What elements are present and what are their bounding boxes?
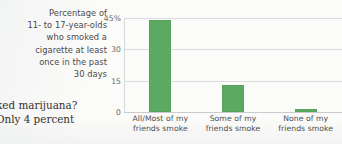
caption-line-1: Percentage of	[0, 7, 107, 19]
caption-line-6: 30 days	[0, 68, 107, 80]
caption-line-3: who smoked a	[0, 31, 107, 43]
body-text-line-2: Only 4 percent	[0, 112, 108, 126]
bar-chart: 0153045% All/Most of myfriends smokeSome…	[96, 6, 342, 144]
x-tick-label-1: Some of myfriends smoke	[197, 114, 270, 135]
bar-series	[124, 18, 342, 112]
bar[interactable]	[149, 20, 171, 112]
body-text-line-1: ked marijuana?	[0, 98, 108, 112]
y-tick-label-45: 45%	[104, 14, 121, 23]
caption-line-5: once in the past	[0, 56, 107, 68]
caption-line-4: cigarette at least	[0, 44, 107, 56]
gridline-0	[124, 112, 342, 113]
y-axis-tick-labels: 0153045%	[96, 18, 121, 112]
x-tick-label-2: None of myfriends smoke	[269, 114, 342, 135]
bar-slot	[197, 18, 270, 112]
y-tick-label-15: 15	[111, 76, 121, 85]
caption-line-2: 11- to 17-year-olds	[0, 19, 107, 31]
bar[interactable]	[222, 85, 244, 112]
bar-slot	[269, 18, 342, 112]
y-tick-label-30: 30	[111, 45, 121, 54]
body-text-fragment: ked marijuana? Only 4 percent	[0, 98, 108, 127]
plot-area	[124, 18, 342, 112]
x-tick-label-0: All/Most of myfriends smoke	[124, 114, 197, 135]
x-axis-category-labels: All/Most of myfriends smokeSome of myfri…	[124, 114, 342, 142]
y-tick-label-0: 0	[116, 108, 121, 117]
chart-caption: Percentage of 11- to 17-year-olds who sm…	[0, 7, 107, 80]
bar-slot	[124, 18, 197, 112]
bar[interactable]	[295, 109, 317, 112]
